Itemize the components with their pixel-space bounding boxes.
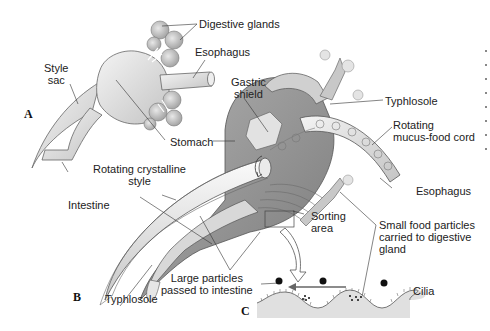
panel-label-b: B [73,290,81,305]
label-digestive-glands: Digestive glands [199,18,280,30]
label-sorting-area: Sorting area [311,210,346,234]
label-esophagus-b: Esophagus [416,185,471,197]
label-intestine: Intestine [68,199,110,211]
label-rotating-crystalline-style: Rotating crystalline style [93,163,186,187]
label-large-particles: Large particles passed to intestine [161,272,253,296]
label-small-food-particles: Small food particles carried to digestiv… [379,219,475,255]
bivalve-stomach-diagram: A B C Digestive glands Esophagus Style s… [0,0,490,331]
panel-a-stomach-external [32,21,215,172]
zoom-arrow [280,228,306,282]
label-typhlosole-top: Typhlosole [385,95,438,107]
panel-label-c: C [241,304,250,319]
label-style-sac: Style sac [44,62,68,86]
cropped-edge-text [485,50,488,160]
panel-c-ciliated-surface [257,278,426,319]
label-stomach: Stomach [170,136,213,148]
label-cilia: Cilia [413,285,434,297]
label-gastric-shield: Gastric shield [231,76,266,100]
label-esophagus-a: Esophagus [195,46,250,58]
panel-label-a: A [24,107,33,122]
label-typhlosole-bottom: Typhlosole [105,293,158,305]
label-rotating-mucus-food-cord: Rotating mucus-food cord [393,119,475,143]
